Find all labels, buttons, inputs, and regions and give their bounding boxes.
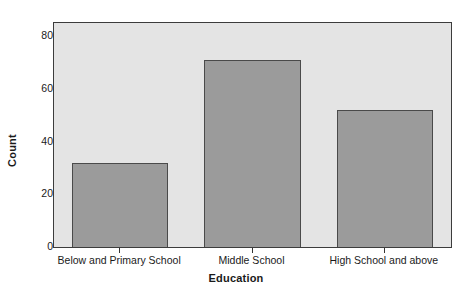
y-tick-label: 60	[25, 83, 53, 94]
y-tick-label: 80	[25, 30, 53, 41]
bar-chart-figure: Count 0 20 40 60 80 Below and Primary Sc…	[0, 0, 472, 301]
y-tick-label: 0	[25, 241, 53, 252]
bar	[204, 60, 301, 247]
x-axis-title: Education	[0, 272, 472, 284]
x-tick-mark	[384, 248, 385, 253]
x-tick-label: Middle School	[219, 255, 285, 267]
plot-area	[53, 22, 452, 248]
bar	[337, 110, 434, 247]
x-tick-mark	[252, 248, 253, 253]
x-tick-label: High School and above	[330, 255, 439, 267]
bar	[72, 163, 169, 247]
y-tick-label: 40	[25, 135, 53, 146]
y-tick-label: 20	[25, 188, 53, 199]
x-tick-label: Below and Primary School	[58, 255, 181, 267]
x-tick-mark	[119, 248, 120, 253]
y-axis: 0 20 40 60 80	[18, 0, 53, 301]
